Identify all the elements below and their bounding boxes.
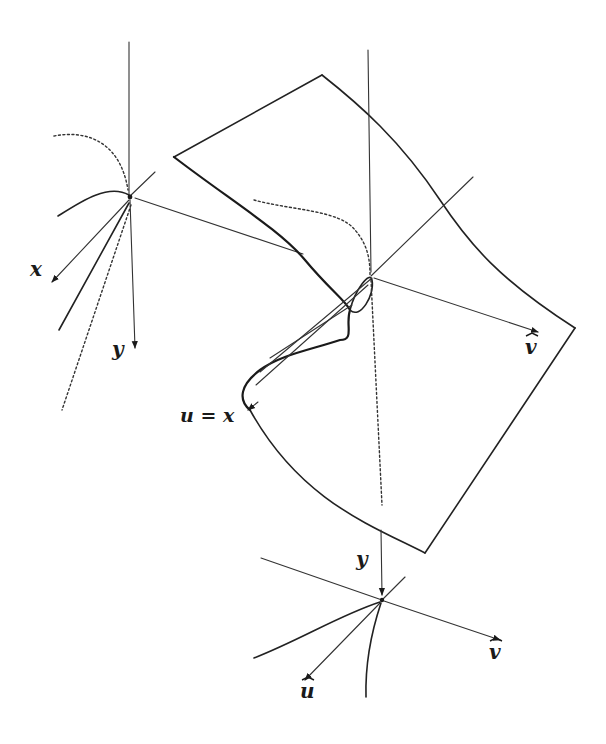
left-x-label: x: [29, 257, 43, 281]
left-y-label: y: [111, 337, 125, 361]
left-y-axis-arrow: [130, 200, 135, 348]
left-dotted-line-lower: [62, 205, 131, 410]
central-v-axis-arrow: [374, 278, 538, 332]
surface-cusp-loop: [350, 277, 372, 312]
surface-fold-line-2: [256, 285, 368, 385]
central-dotted-vertical: [371, 280, 382, 505]
bottom-y-label: y: [355, 547, 369, 571]
left-to-surface-line: [135, 198, 303, 254]
central-vertical-axis: [368, 50, 371, 272]
bottom-solid-curve-down: [366, 603, 381, 697]
left-solid-line-lower: [59, 203, 129, 330]
left-coordinate-frame: x y: [29, 42, 303, 410]
diagram-figure: x y v u = x: [0, 0, 606, 744]
bottom-u-label: u: [300, 679, 315, 703]
central-diagonal-axis: [371, 177, 473, 276]
bottom-y-axis-arrow: [381, 530, 382, 595]
surface-v-label: v: [525, 335, 537, 359]
bottom-diagonal-axis: [382, 577, 405, 600]
surface-fold-curve: [243, 310, 350, 410]
bottom-origin-point: [380, 598, 384, 602]
surface-bottom-edge: [250, 410, 425, 553]
surface-top-left-edge: [174, 75, 322, 157]
bottom-u-axis-arrow: [305, 603, 380, 680]
left-solid-curve: [58, 191, 129, 216]
surface-fold-line-1: [260, 278, 372, 372]
left-origin-point: [128, 195, 133, 200]
u-equals-x-label: u = x: [180, 404, 235, 426]
surface-fold-line-3: [270, 305, 352, 358]
surface-right-edge: [425, 328, 575, 553]
surface-left-edge: [174, 157, 350, 310]
bottom-v-label: v: [489, 640, 501, 664]
bottom-v-axis-arrow: [384, 601, 500, 640]
left-dotted-curve-top: [54, 134, 128, 190]
left-diagonal-axis: [129, 172, 155, 197]
u-equals-x-arrow: [248, 402, 258, 410]
bottom-solid-curve-left: [254, 602, 380, 658]
central-coordinate-frame: v u = x: [180, 50, 538, 505]
bottom-coordinate-frame: y v u: [254, 530, 502, 703]
surface-dotted-curve: [254, 200, 370, 275]
folded-surface: [174, 75, 575, 553]
